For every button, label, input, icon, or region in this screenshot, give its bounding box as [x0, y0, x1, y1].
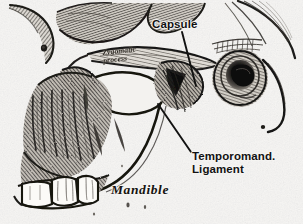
tooth-1 — [22, 182, 52, 207]
tooth-2 — [52, 177, 78, 206]
tooth-3 — [78, 176, 98, 204]
label-temporomandibular-ligament: Temporomand. Ligament — [192, 150, 275, 176]
label-mandible: Mandible — [111, 182, 169, 197]
label-temporomandibular-ligament-line2: Ligament — [192, 163, 275, 176]
external-auditory-meatus — [212, 49, 268, 107]
anatomical-figure: Capsule Temporomand. Ligament Mandible Z… — [0, 0, 303, 224]
label-temporomandibular-ligament-line1: Temporomand. — [192, 150, 275, 163]
label-capsule: Capsule — [152, 18, 197, 31]
